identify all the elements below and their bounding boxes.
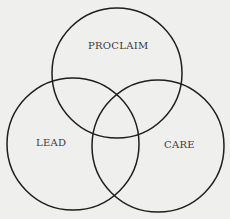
circle-proclaim <box>52 8 182 138</box>
label-proclaim: PROCLAIM <box>88 40 149 51</box>
circle-care <box>92 80 224 212</box>
label-care: CARE <box>164 139 195 150</box>
venn-diagram: PROCLAIM LEAD CARE <box>0 0 230 219</box>
label-lead: LEAD <box>36 137 66 148</box>
venn-circles <box>0 0 230 219</box>
circle-lead <box>7 78 139 210</box>
